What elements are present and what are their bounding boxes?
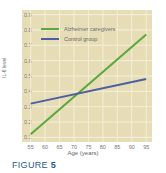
legend-label: Alzheimer caregivers [64, 26, 116, 32]
plot-area: 0.10.20.30.40.50.60.70.80.95560657075808… [0, 0, 166, 160]
figure-prefix: FIGURE [12, 160, 48, 170]
line-chart: 0.10.20.30.40.50.60.70.80.95560657075808… [0, 0, 166, 160]
figure-number: 5 [51, 160, 56, 170]
x-axis-label: Age (years) [0, 150, 166, 156]
legend-label: Control group [64, 36, 97, 42]
figure-caption: FIGURE 5 [12, 160, 56, 170]
y-axis-label: IL-6 level [1, 58, 7, 78]
